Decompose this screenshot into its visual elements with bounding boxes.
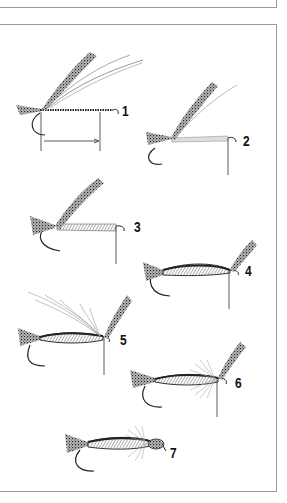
- step-5-label: 5: [120, 331, 127, 348]
- step-3-label: 3: [134, 218, 141, 235]
- step-4-label: 4: [245, 262, 252, 279]
- step-5-fly: [18, 292, 132, 375]
- step-3-fly: [30, 178, 124, 264]
- step-7-label: 7: [170, 444, 177, 461]
- step-6-fly: [130, 342, 246, 417]
- step-7-fly: [65, 426, 166, 471]
- fly-tying-illustration: [0, 0, 287, 503]
- step-6-label: 6: [235, 374, 242, 391]
- step-2-label: 2: [243, 132, 250, 149]
- step-1-label: 1: [122, 102, 129, 119]
- step-4-fly: [143, 240, 257, 309]
- step-2-fly: [146, 82, 237, 175]
